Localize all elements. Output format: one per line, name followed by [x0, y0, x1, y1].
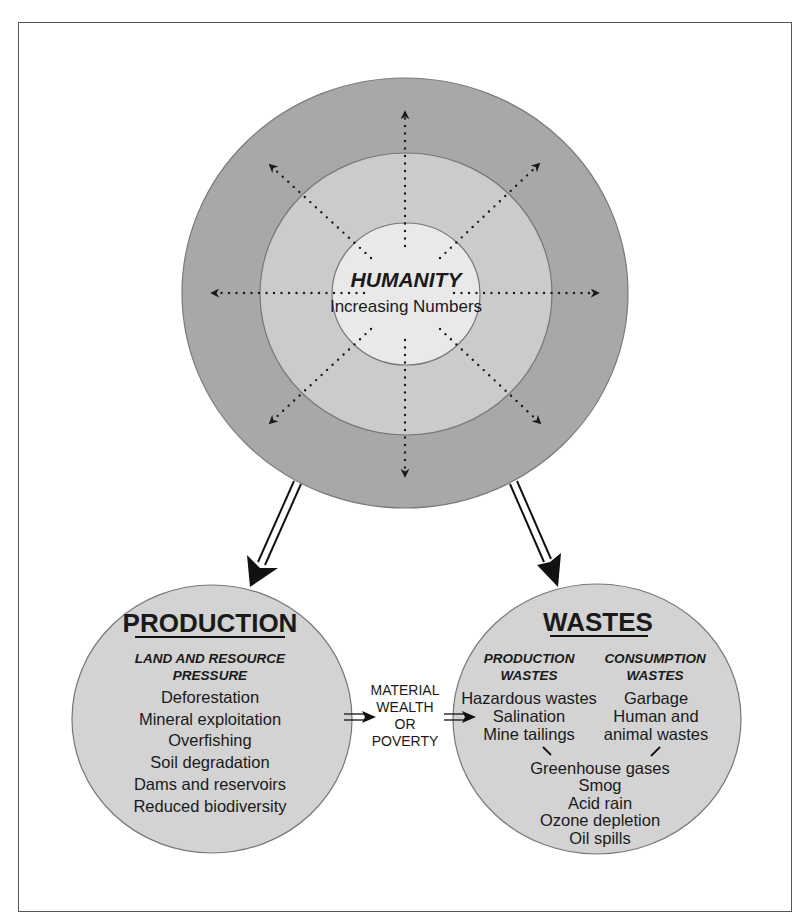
consumption-wastes-heading: CONSUMPTION	[604, 651, 706, 666]
humanity-title: HUMANITY	[351, 268, 464, 291]
consumption-waste-item: animal wastes	[604, 725, 709, 743]
shared-effect-item: Oil spills	[569, 829, 630, 847]
production-item: Reduced biodiversity	[133, 797, 287, 815]
production-waste-item: Mine tailings	[483, 725, 575, 743]
production-waste-item: Hazardous wastes	[461, 689, 597, 707]
production-item: Mineral exploitation	[139, 710, 281, 728]
arrowhead-production	[247, 555, 278, 587]
material-wealth-or-poverty-label: MATERIAL WEALTH OR POVERTY	[371, 682, 440, 749]
production-wastes-heading: PRODUCTION	[484, 651, 575, 666]
connector-line: OR	[395, 716, 416, 732]
production-wastes-heading: WASTES	[500, 668, 557, 683]
production-subtitle: PRESSURE	[173, 668, 248, 683]
production-title: PRODUCTION	[123, 608, 298, 638]
connector-line: MATERIAL	[371, 682, 440, 698]
arrow-to-production	[247, 481, 301, 587]
arrow-to-wastes	[510, 481, 561, 587]
production-item: Soil degradation	[150, 753, 269, 771]
shared-effect-item: Acid rain	[568, 794, 632, 812]
production-item: Overfishing	[168, 731, 251, 749]
shared-effect-item: Greenhouse gases	[530, 759, 669, 777]
arrowhead-wastes	[537, 553, 561, 587]
shared-effect-item: Smog	[578, 776, 621, 794]
humanity-diagram: HUMANITY Increasing Numbers MATERIAL WEA…	[0, 0, 802, 922]
shared-effect-item: Ozone depletion	[540, 811, 660, 829]
production-subtitle: LAND AND RESOURCE	[135, 651, 286, 666]
production-item: Deforestation	[161, 688, 259, 706]
consumption-wastes-heading: WASTES	[626, 668, 683, 683]
production-waste-item: Salination	[493, 707, 565, 725]
wastes-title: WASTES	[543, 607, 653, 637]
connector-line: POVERTY	[372, 733, 439, 749]
humanity-subtitle: Increasing Numbers	[330, 297, 482, 316]
consumption-waste-item: Human and	[613, 707, 698, 725]
connector-line: WEALTH	[376, 699, 433, 715]
production-item: Dams and reservoirs	[134, 775, 286, 793]
consumption-waste-item: Garbage	[624, 689, 688, 707]
